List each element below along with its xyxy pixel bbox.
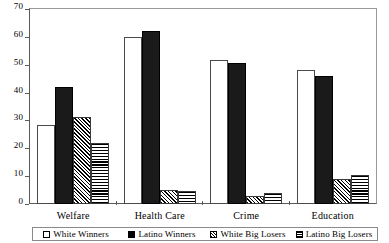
y-axis-tick-label: 30 [14, 113, 23, 122]
y-axis-tick-label: 40 [14, 86, 23, 95]
bar[interactable] [351, 175, 369, 204]
legend-item[interactable]: Latino Winners [119, 229, 205, 239]
y-axis-tick-label: 50 [14, 58, 23, 67]
bar-group [290, 9, 377, 204]
legend-swatch-icon [210, 231, 217, 238]
bar-group-bars [37, 9, 109, 204]
x-axis-category-label: Welfare [30, 209, 117, 225]
bar[interactable] [160, 190, 178, 204]
legend-item[interactable]: Latino Big Losers [291, 229, 377, 239]
y-axis-tick-mark [25, 37, 29, 38]
bar[interactable] [246, 196, 264, 204]
bar[interactable] [178, 191, 196, 204]
legend-label: White Winners [53, 229, 109, 239]
bar-group [117, 9, 204, 204]
y-axis-tick-label: 60 [14, 30, 23, 39]
y-axis-tick-label: 70 [14, 2, 23, 11]
y-axis-tick-label: 20 [14, 141, 23, 150]
y-axis-tick-mark [25, 120, 29, 121]
legend-swatch-icon [43, 231, 50, 238]
bar[interactable] [333, 179, 351, 204]
legend-label: Latino Winners [138, 229, 195, 239]
legend-swatch-icon [296, 231, 303, 238]
bar[interactable] [228, 63, 246, 204]
bar-chart: 010203040506070 WelfareHealth CareCrimeE… [0, 0, 389, 243]
x-axis-category-label: Health Care [117, 209, 204, 225]
bar-group-bars [297, 9, 369, 204]
legend-item[interactable]: White Winners [33, 229, 119, 239]
y-axis-tick-mark [25, 93, 29, 94]
y-axis: 010203040506070 [0, 0, 29, 212]
y-axis-tick-mark [25, 176, 29, 177]
y-axis-tick-mark [25, 65, 29, 66]
y-axis-tick-label: 0 [18, 197, 23, 206]
legend-item[interactable]: White Big Losers [205, 229, 291, 239]
bar[interactable] [73, 117, 91, 204]
x-axis-category-labels: WelfareHealth CareCrimeEducation [30, 209, 376, 225]
y-axis-tick-label: 10 [14, 169, 23, 178]
legend-label: White Big Losers [220, 229, 285, 239]
bar[interactable] [264, 193, 282, 204]
bar[interactable] [297, 70, 315, 204]
y-axis-tick-mark [25, 148, 29, 149]
bar-groups [30, 9, 376, 204]
bar-group-bars [124, 9, 196, 204]
x-axis-category-label: Education [290, 209, 377, 225]
bar[interactable] [91, 143, 109, 204]
x-axis-category-label: Crime [203, 209, 290, 225]
bar-group-bars [210, 9, 282, 204]
legend-swatch-icon [128, 231, 135, 238]
legend-label: Latino Big Losers [306, 229, 373, 239]
bar[interactable] [37, 125, 55, 204]
chart-legend: White WinnersLatino WinnersWhite Big Los… [32, 227, 378, 241]
bar-group [30, 9, 117, 204]
bar[interactable] [55, 87, 73, 204]
y-axis-tick-mark [25, 9, 29, 10]
y-axis-tick-mark [25, 204, 29, 205]
bar[interactable] [124, 37, 142, 204]
bar[interactable] [315, 76, 333, 204]
bar-group [203, 9, 290, 204]
bar[interactable] [210, 60, 228, 204]
bar[interactable] [142, 31, 160, 204]
